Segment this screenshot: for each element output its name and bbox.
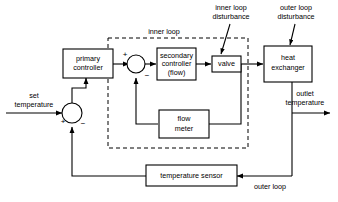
wire-flow-meter-to-inner-junction <box>136 78 158 124</box>
set-temperature-label-line1: set <box>29 91 39 100</box>
outer-loop-disturbance-label-line2: disturbance <box>277 12 314 21</box>
set-temperature-label-line2: temperature <box>15 100 54 109</box>
inner-junction-minus-sign: − <box>145 71 150 80</box>
flow-meter-label-line2: meter <box>175 124 194 133</box>
primary-controller-label-line1: primary <box>76 54 100 63</box>
wire-valve-branch-to-flow-meter <box>209 64 241 124</box>
temperature-sensor-label: temperature sensor <box>160 171 223 180</box>
inner-loop-label: inner loop <box>148 27 180 36</box>
outer-loop-disturbance-label-line1: outer loop <box>280 3 312 12</box>
valve-label: valve <box>218 59 235 68</box>
secondary-controller-label-line3: (flow) <box>168 68 186 77</box>
wire-outer-loop-disturbance-arrow <box>290 24 295 45</box>
inner-loop-disturbance-label-line2: disturbance <box>212 12 249 21</box>
control-system-diagram: primary controller secondary controller … <box>0 0 338 202</box>
wire-outer-junction-to-primary-controller <box>72 78 86 107</box>
inner-loop-disturbance-label-line1: inner loop <box>215 3 247 12</box>
outer-loop-label: outer loop <box>254 182 286 191</box>
outer-junction-plus-sign: + <box>61 117 66 126</box>
primary-controller-label-line2: controller <box>73 63 103 72</box>
inner-junction-plus-sign: + <box>123 50 128 59</box>
flow-meter-label-line1: flow <box>178 114 192 123</box>
outer-junction-minus-sign: − <box>81 119 86 128</box>
heat-exchanger-label-line1: heat <box>281 53 295 62</box>
outlet-temperature-label-line2: temperature <box>286 98 325 107</box>
wire-inner-loop-disturbance-arrow <box>221 24 230 54</box>
wire-temperature-sensor-to-outer-junction <box>72 127 147 176</box>
outlet-temperature-label-line1: outlet <box>296 89 314 98</box>
heat-exchanger-label-line2: exchanger <box>271 63 305 72</box>
diagram-canvas: primary controller secondary controller … <box>0 0 338 202</box>
summing-junction-inner[interactable] <box>127 55 145 73</box>
